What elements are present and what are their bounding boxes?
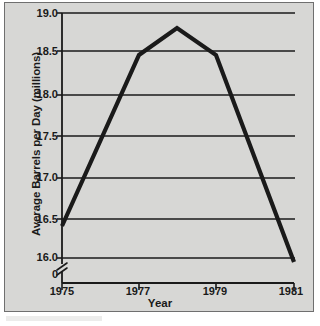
data-line-series-0 xyxy=(62,28,294,262)
x-axis-ticks xyxy=(62,283,294,290)
gridlines xyxy=(62,13,295,258)
chart-figure: Average Barrels per Day (millions) 19.0 … xyxy=(0,0,320,326)
plot-area: Average Barrels per Day (millions) 19.0 … xyxy=(0,0,320,326)
chart-svg xyxy=(0,0,320,326)
